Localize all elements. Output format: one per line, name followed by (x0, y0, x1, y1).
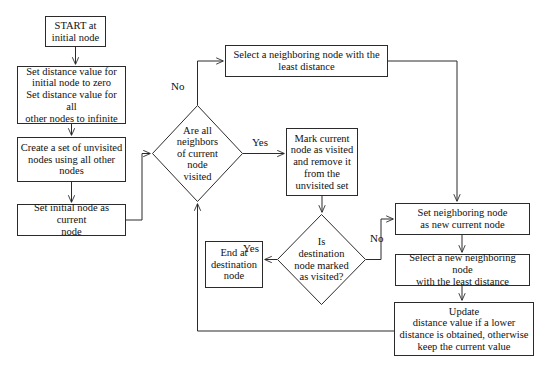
node-set_distance: Set distance value for initial node to z… (17, 66, 126, 124)
node-select_new_neighbor: Select a new neighboring node with the l… (395, 254, 530, 286)
node-label-is_destination_visited: Is destination node marked as visited? (277, 214, 366, 305)
node-label-mark_visited: Mark current node as visited and remove … (289, 133, 355, 192)
node-label-create_unvisited: Create a set of unvisited nodes using al… (19, 142, 124, 177)
node-label-select_new_neighbor: Select a new neighboring node with the l… (396, 252, 529, 287)
node-select_neighbor: Select a neighboring node with the least… (225, 45, 388, 77)
node-label-set_distance: Set distance value for initial node to z… (18, 66, 125, 125)
node-label-set_neighbor_current: Set neighboring node as new current node (416, 207, 510, 231)
node-label-all_neighbors_visited: Are all neighbors of current node visite… (152, 105, 243, 202)
edge-set-initial-to-diamond1 (126, 154, 150, 221)
node-label-select_neighbor: Select a neighboring node with the least… (231, 49, 381, 73)
node-set_neighbor_current: Set neighboring node as new current node (395, 203, 530, 235)
edge-label-yes_all_neighbors: Yes (252, 137, 268, 148)
edge-label-no_all_neighbors: No (171, 81, 184, 92)
node-label-start: START at initial node (50, 20, 102, 44)
flowchart-canvas: START at initial nodeSet distance value … (0, 0, 549, 377)
node-mark_visited: Mark current node as visited and remove … (286, 128, 358, 196)
node-start: START at initial node (45, 16, 106, 47)
node-create_unvisited: Create a set of unvisited nodes using al… (17, 137, 126, 182)
node-label-update_distance: Update distance value if a lower distanc… (398, 306, 531, 353)
edge-select-neighbor-to-set-neighbor-current (388, 61, 457, 201)
node-all_neighbors_visited: Are all neighbors of current node visite… (152, 105, 243, 202)
edge-label-yes_is_destination: Yes (243, 243, 259, 254)
edge-diamond1-no-to-select-neighbor (198, 61, 224, 105)
node-label-set_initial_current: Set initial node as current node (18, 202, 125, 237)
node-update_distance: Update distance value if a lower distanc… (394, 302, 534, 356)
edge-label-no_is_destination: No (370, 233, 383, 244)
node-set_initial_current: Set initial node as current node (17, 204, 126, 236)
node-is_destination_visited: Is destination node marked as visited? (277, 214, 366, 305)
